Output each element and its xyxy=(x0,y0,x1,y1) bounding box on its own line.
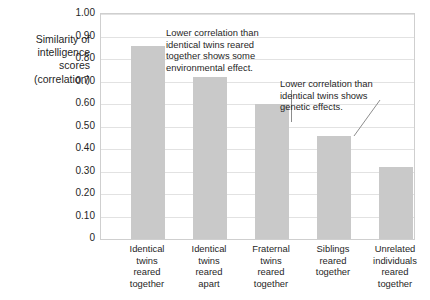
y-tick-label: 0.80 xyxy=(61,53,95,63)
y-tick-label: 0.40 xyxy=(61,143,95,153)
y-tick-label: 0.90 xyxy=(61,31,95,41)
y-tick-label: 0 xyxy=(61,233,95,243)
y-tick-label: 0.30 xyxy=(61,166,95,176)
annotation-line: together shows some xyxy=(166,50,259,62)
y-tick-label: 1.00 xyxy=(61,8,95,18)
annotation-environmental-effect: Lower correlation than identical twins r… xyxy=(166,27,259,73)
y-tick-label: 0.60 xyxy=(61,98,95,108)
bar-siblings-reared-together xyxy=(317,136,351,240)
x-category-line: together xyxy=(358,278,430,290)
bar-fraternal-twins-reared-together xyxy=(255,104,289,239)
annotation-line: identical twins reared xyxy=(166,39,259,51)
annotation-line: identical twins shows xyxy=(280,90,373,102)
bar-identical-twins-reared-apart xyxy=(193,77,227,239)
annotation-line: environmental effect. xyxy=(166,62,259,74)
bar-unrelated-individuals-reared-together xyxy=(379,167,413,239)
annotation-genetic-effects: Lower correlation than identical twins s… xyxy=(280,78,373,113)
chart-figure: Similarity of intelligence scores (corre… xyxy=(0,0,430,300)
annotation-line: Lower correlation than xyxy=(280,78,373,90)
annotation-line: genetic effects. xyxy=(280,101,373,113)
x-category-line: reared xyxy=(358,266,430,278)
y-tick-label: 0.20 xyxy=(61,188,95,198)
gridline xyxy=(101,14,414,15)
annotation-line: Lower correlation than xyxy=(166,27,259,39)
bar-identical-twins-reared-together xyxy=(131,46,165,240)
y-tick-label: 0.70 xyxy=(61,76,95,86)
y-tick-label: 0.50 xyxy=(61,121,95,131)
x-category-line: together xyxy=(234,278,308,290)
x-category-label-unrelated-individuals-reared-together: Unrelated individuals reared together xyxy=(358,243,430,289)
y-tick-label: 0.10 xyxy=(61,211,95,221)
x-category-line: individuals xyxy=(358,255,430,267)
x-category-line: Unrelated xyxy=(358,243,430,255)
